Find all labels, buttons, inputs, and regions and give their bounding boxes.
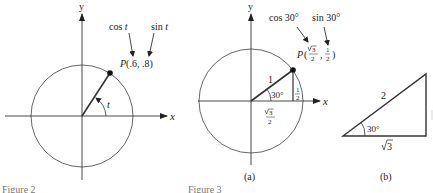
cos30-label: cos 30°	[269, 12, 299, 23]
svg-text:): )	[332, 49, 335, 61]
sin30-arrow	[324, 27, 328, 45]
svg-text:2: 2	[296, 94, 300, 102]
point-p-dot-a	[290, 67, 296, 73]
triangle-figure-b: 2 30° 3 (b)	[343, 74, 432, 183]
figure-caption-right: Figure 3	[188, 184, 222, 193]
sin30-label: sin 30°	[312, 12, 340, 23]
y-axis-label: y	[79, 1, 84, 12]
point-p-label: P(.6, .8)	[119, 58, 153, 70]
svg-text:1: 1	[326, 46, 330, 54]
cos30-arrow	[297, 27, 308, 42]
point-p-dot	[107, 70, 113, 76]
svg-text:,: ,	[320, 49, 323, 60]
point-p-label-a: P ( 3 2 , 1 2 )	[296, 46, 335, 63]
radius-line	[82, 73, 110, 116]
hypotenuse-label-a: 1	[268, 74, 273, 85]
svg-text:2: 2	[326, 55, 330, 63]
svg-text:2: 2	[268, 118, 272, 126]
y-axis-label-a: y	[248, 1, 253, 12]
svg-text:1: 1	[296, 86, 300, 94]
cos-t-label: cos t	[109, 21, 128, 32]
angle-30-arc-b	[361, 122, 365, 136]
hypotenuse-label-b: 2	[381, 90, 386, 101]
svg-text:3: 3	[387, 141, 392, 152]
x-axis-label: x	[169, 110, 175, 122]
sin-arrow	[149, 33, 154, 56]
svg-text:P: P	[296, 49, 303, 60]
base-label-b: 3	[382, 140, 393, 152]
svg-text:2: 2	[311, 55, 315, 63]
sin-t-label: sin t	[151, 21, 168, 32]
unit-circle-figure-a: x y cos 30° sin 30° P ( 3 2 , 1 2 ) 1 30…	[188, 1, 340, 193]
subcaption-b: (b)	[380, 171, 392, 183]
right-triangle	[343, 74, 426, 136]
figures-canvas: x y cos t sin t P(.6, .8) t Figure 2 x y…	[0, 0, 433, 193]
svg-text:3: 3	[269, 109, 273, 117]
svg-text:3: 3	[312, 46, 316, 54]
angle-30-label-b: 30°	[367, 124, 380, 134]
adjacent-label-a: 3 2	[265, 109, 275, 126]
angle-30-label-a: 30°	[271, 90, 284, 100]
opposite-label-a: 1 2	[295, 86, 300, 102]
cos-arrow	[129, 33, 133, 56]
unit-circle-figure-left: x y cos t sin t P(.6, .8) t Figure 2	[2, 1, 175, 193]
figure-caption-left: Figure 2	[2, 184, 36, 193]
svg-text:(: (	[304, 49, 308, 61]
angle-t-arc	[96, 98, 106, 116]
subcaption-a: (a)	[244, 171, 255, 183]
x-axis-label-a: x	[322, 95, 328, 107]
angle-t-label: t	[107, 99, 110, 110]
